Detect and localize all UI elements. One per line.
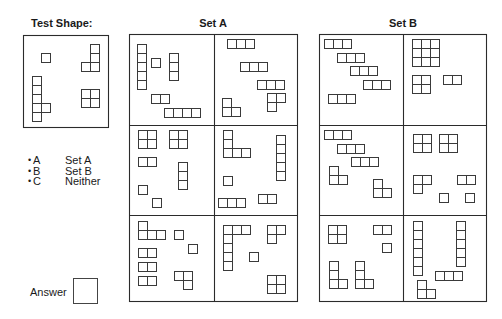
shape-cell: [458, 176, 467, 185]
shape-cell: [139, 131, 148, 140]
shape-cell: [440, 135, 449, 144]
shape-cell: [414, 231, 423, 240]
set-b-grid: [320, 35, 487, 302]
test-shape-pieces: [33, 45, 100, 122]
shape-cell: [277, 163, 286, 172]
shape-cell: [233, 226, 242, 235]
shape-cell: [232, 108, 241, 117]
shape-cell: [224, 235, 233, 244]
shape-cell: [365, 280, 374, 289]
shape-piece: [413, 40, 440, 67]
shape-cell: [431, 40, 440, 49]
shape-cell: [329, 226, 338, 235]
shape-cell: [33, 77, 42, 86]
shape-cell: [250, 63, 259, 72]
shape-cell: [356, 271, 365, 280]
shape-cell: [224, 262, 233, 271]
shape-cell: [153, 199, 162, 208]
shape-cell: [139, 186, 148, 195]
shape-cell: [352, 158, 361, 167]
shape-piece: [170, 131, 188, 149]
shape-cell: [325, 40, 334, 49]
shape-piece: [466, 194, 475, 203]
shape-cell: [82, 63, 91, 72]
shape-cell: [179, 172, 188, 181]
shape-cell: [364, 81, 373, 90]
shape-piece: [259, 195, 277, 204]
set-a-panel-4: [219, 131, 286, 208]
shape-cell: [267, 81, 276, 90]
shape-cell: [223, 108, 232, 117]
shape-piece: [224, 177, 233, 186]
shape-cell: [277, 154, 286, 163]
shape-cell: [237, 199, 246, 208]
shape-cell: [224, 177, 233, 186]
shape-cell: [457, 249, 466, 258]
shape-cell: [414, 249, 423, 258]
shape-cell: [277, 136, 286, 145]
shape-cell: [139, 140, 148, 149]
shape-piece: [139, 131, 157, 149]
shape-cell: [457, 258, 466, 267]
shape-cell: [148, 140, 157, 149]
shape-cell: [329, 235, 338, 244]
set-b-panel-4: [414, 135, 476, 203]
shape-cell: [414, 135, 423, 144]
shape-cell: [170, 63, 179, 72]
shape-cell: [422, 49, 431, 58]
shape-piece: [152, 59, 161, 68]
shape-cell: [237, 40, 246, 49]
option-a[interactable]: • A Set A: [26, 155, 116, 166]
shape-cell: [356, 280, 365, 289]
shape-cell: [228, 40, 237, 49]
shape-piece: [175, 231, 184, 240]
shape-cell: [161, 95, 170, 104]
shape-cell: [170, 140, 179, 149]
shape-piece: [139, 249, 157, 258]
shape-cell: [268, 195, 277, 204]
shape-cell: [148, 231, 157, 240]
shape-cell: [449, 144, 458, 153]
shape-cell: [268, 276, 277, 285]
shape-piece: [338, 145, 365, 154]
option-c[interactable]: • C Neither: [26, 176, 116, 187]
shape-piece: [325, 131, 352, 140]
shape-cell: [338, 95, 347, 104]
shape-piece: [250, 253, 259, 262]
shape-cell: [192, 109, 201, 118]
shape-piece: [414, 135, 432, 153]
set-a-frame: [130, 35, 298, 302]
shape-piece: [152, 95, 170, 104]
shape-cell: [224, 253, 233, 262]
shape-piece: [330, 262, 348, 289]
shape-cell: [139, 222, 148, 231]
shape-cell: [157, 231, 166, 240]
shape-piece: [414, 176, 432, 194]
shape-cell: [330, 167, 339, 176]
shape-cell: [268, 226, 277, 235]
shape-cell: [444, 76, 453, 85]
shape-cell: [413, 40, 422, 49]
shape-piece: [42, 54, 51, 63]
shape-cell: [356, 145, 365, 154]
shape-cell: [361, 158, 370, 167]
option-label: Neither: [65, 176, 100, 187]
shape-piece: [228, 40, 255, 49]
test-shape-frame: [24, 36, 109, 128]
shape-cell: [224, 244, 233, 253]
shape-piece: [338, 54, 365, 63]
shape-cell: [373, 81, 382, 90]
shape-cell: [414, 144, 423, 153]
answer-box[interactable]: [73, 278, 98, 304]
shape-piece: [165, 109, 201, 118]
shape-cell: [184, 272, 193, 281]
shape-cell: [277, 145, 286, 154]
shape-cell: [427, 290, 436, 299]
shape-cell: [369, 67, 378, 76]
shape-cell: [374, 189, 383, 198]
shape-cell: [423, 135, 432, 144]
set-a-panel-5: [139, 222, 198, 290]
shape-cell: [356, 262, 365, 271]
shape-cell: [91, 63, 100, 72]
shape-cell: [175, 272, 184, 281]
